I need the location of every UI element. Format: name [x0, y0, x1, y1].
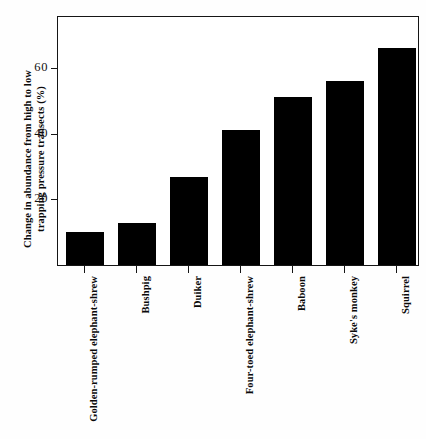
x-tick-label-bushpig: Bushpig [140, 276, 151, 313]
x-tick-mark-4 [292, 266, 293, 273]
bar-sykes-monkey [326, 81, 364, 265]
bar-duiker [170, 177, 208, 265]
plot-area [58, 17, 418, 265]
x-tick-label-baboon: Baboon [296, 276, 307, 311]
x-tick-label-golden-rumped-elephant-shrew: Golden-rumped elephant-shrew [88, 276, 99, 422]
x-tick-mark-3 [240, 266, 241, 273]
plot-frame [57, 16, 419, 266]
bar-four-toed-elephant-shrew [222, 130, 260, 265]
bar-baboon [274, 97, 312, 265]
bar-squirrel [378, 48, 416, 265]
x-tick-label-squirrel: Squirrel [400, 276, 411, 314]
x-tick-mark-5 [344, 266, 345, 273]
y-tick-label-20: 20 [12, 191, 48, 206]
y-tick-label-60: 60 [12, 60, 48, 75]
y-axis-title-line-2: trapping pressure transects (%) [34, 86, 47, 232]
x-tick-label-four-toed-elephant-shrew: Four-toed elephant-shrew [244, 276, 255, 394]
bar-golden-rumped-elephant-shrew [66, 232, 104, 265]
x-tick-mark-1 [136, 266, 137, 273]
bar-bushpig [118, 223, 156, 265]
x-tick-mark-2 [188, 266, 189, 273]
x-tick-mark-6 [396, 266, 397, 273]
figure: Change in abundance from high to low tra… [0, 0, 426, 439]
x-tick-mark-0 [84, 266, 85, 273]
y-axis-title-line-1: Change in abundance from high to low [21, 70, 34, 248]
y-tick-label-40: 40 [12, 126, 48, 141]
x-tick-label-sykes-monkey: Syke's monkey [348, 276, 359, 344]
x-tick-label-duiker: Duiker [192, 276, 203, 308]
